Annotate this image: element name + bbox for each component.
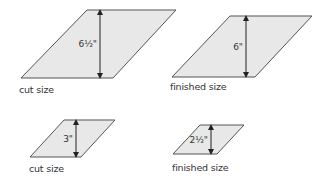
large-cut-diamond: 6½" [21,10,176,78]
caption-small-cut: cut size [29,163,64,174]
dimension-label: 2½" [189,135,208,145]
dimension-label: 3" [63,134,73,144]
caption-small-finished: finished size [172,162,228,173]
small-cut-diamond: 3" [30,120,115,157]
caption-large-finished: finished size [170,81,226,92]
dimension-label: 6½" [78,39,97,49]
small-finished-diamond: 2½" [173,125,244,154]
caption-large-cut: cut size [19,84,54,95]
large-finished-diamond: 6" [172,16,312,77]
dimension-label: 6" [233,42,243,52]
